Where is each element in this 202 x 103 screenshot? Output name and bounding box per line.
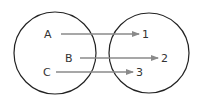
mapping-diagram: A B C 1 2 3 [0,0,202,103]
domain-element-b: B [65,52,73,65]
codomain-element-3: 3 [136,66,143,79]
domain-element-c: C [43,66,51,79]
codomain-element-1: 1 [142,28,149,41]
domain-set-circle [14,12,96,94]
codomain-element-2: 2 [161,52,168,65]
domain-element-a: A [44,28,52,41]
codomain-set-circle [109,13,189,93]
